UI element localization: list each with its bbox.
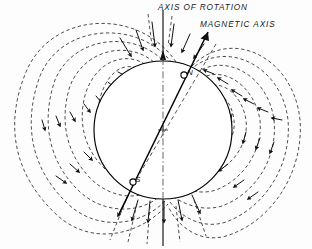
inflow-top-1 <box>120 38 131 56</box>
magnetic-dipole-diagram: AXIS OF ROTATION MAGNETIC AXIS N S <box>0 0 312 249</box>
label-magnetic-axis: MAGNETIC AXIS <box>200 20 276 29</box>
arrow-left-n <box>56 176 66 183</box>
arrow-left-l <box>84 152 92 160</box>
diagram-canvas <box>0 0 312 249</box>
label-axis-of-rotation: AXIS OF ROTATION <box>158 3 248 12</box>
outflow-bot-dash-4 <box>176 206 180 242</box>
label-north-pole: N <box>187 68 193 77</box>
arrow-left-g <box>70 112 75 121</box>
arrow-right-j <box>256 138 260 149</box>
arrow-right-f <box>272 118 282 120</box>
label-south-pole: S <box>135 175 140 184</box>
inflow-top-3 <box>152 22 155 46</box>
arrow-left-h <box>56 116 60 126</box>
outflow-bot-dash-2 <box>128 204 137 242</box>
arrow-right-e <box>258 108 268 112</box>
inflow-top-5 <box>182 34 190 52</box>
outflow-bot-6 <box>192 195 200 213</box>
magnetic-axis-arrow <box>201 32 210 41</box>
outflow-bot-2 <box>132 200 138 220</box>
arrow-right-i <box>243 132 246 143</box>
arrow-right-b <box>218 78 228 84</box>
arrow-right-d <box>244 99 254 104</box>
arrow-right-n <box>234 180 244 187</box>
arrow-left-i <box>42 120 45 130</box>
arrow-right-o <box>248 192 258 199</box>
arrow-right-c <box>232 90 242 96</box>
arrow-right-a <box>204 70 214 74</box>
arrow-left-m <box>70 164 79 172</box>
inflow-top-dash-1 <box>148 14 152 46</box>
outflow-bot-dash-5 <box>194 200 206 236</box>
outflow-bot-5 <box>178 200 182 220</box>
arrow-left-f <box>84 104 90 112</box>
arrow-right-k <box>270 142 274 153</box>
inflow-top-4 <box>171 24 174 46</box>
